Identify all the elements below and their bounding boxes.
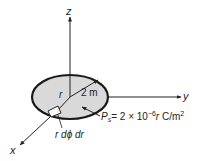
density-exponent: −6 — [148, 110, 156, 117]
density-expression: = 2 × 10 — [111, 111, 148, 122]
y-axis-label: y — [182, 90, 190, 102]
density-units: C/m — [159, 111, 180, 122]
z-axis-label: z — [65, 5, 72, 17]
density-units-exponent: 2 — [180, 110, 184, 117]
disk-charge-diagram: z y x r 2 m Ps= 2 × 10−6r C/m2 r dϕ dr — [0, 0, 203, 161]
area-element-label: r dϕ dr — [55, 129, 85, 140]
radius-value-label: 2 m — [81, 87, 98, 98]
x-axis-label: x — [9, 144, 16, 156]
x-axis — [20, 117, 50, 145]
charge-density-label: Ps= 2 × 10−6r C/m2 — [101, 110, 184, 123]
